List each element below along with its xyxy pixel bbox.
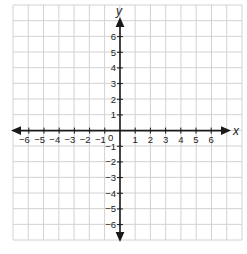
x-tick-label: 5 bbox=[193, 134, 198, 145]
y-tick-label: −2 bbox=[105, 156, 116, 167]
x-tick-label: 1 bbox=[133, 134, 138, 145]
y-tick-label: −6 bbox=[105, 219, 116, 230]
y-axis-up-arrow-icon bbox=[116, 17, 125, 27]
y-tick-label: 2 bbox=[111, 94, 116, 105]
x-tick-label: −2 bbox=[80, 134, 91, 145]
y-tick-label: −4 bbox=[105, 188, 116, 199]
y-tick-label: −5 bbox=[105, 203, 116, 214]
y-tick-label: −3 bbox=[105, 172, 116, 183]
origin-label: 0 bbox=[108, 132, 113, 143]
grid-lines bbox=[13, 5, 242, 240]
x-tick-label: 3 bbox=[163, 134, 168, 145]
y-tick-label: 3 bbox=[111, 78, 116, 89]
y-tick-label: 1 bbox=[111, 109, 116, 120]
x-axis-right-arrow-icon bbox=[221, 126, 231, 135]
x-tick-label: −3 bbox=[65, 134, 76, 145]
x-tick-label: 6 bbox=[209, 134, 214, 145]
y-tick-label: 5 bbox=[111, 47, 116, 58]
x-tick-label: −5 bbox=[34, 134, 45, 145]
y-axis-label: y bbox=[115, 4, 123, 18]
x-axis-label: x bbox=[232, 124, 240, 138]
y-tick-label: 4 bbox=[111, 62, 116, 73]
x-tick-label: −4 bbox=[49, 134, 60, 145]
x-tick-label: 4 bbox=[178, 134, 183, 145]
x-tick-label: −6 bbox=[19, 134, 30, 145]
x-tick-label: 2 bbox=[148, 134, 153, 145]
coordinate-plane: −6−5−4−3−2−1123456654321−1−2−3−4−5−6 x y… bbox=[0, 0, 247, 254]
y-tick-label: 6 bbox=[111, 31, 116, 42]
